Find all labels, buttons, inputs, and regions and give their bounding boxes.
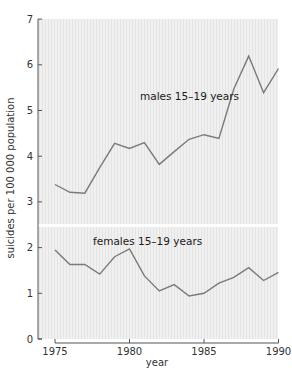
line-chart: 01234567 1975198019851990 males 15–19 ye… [0, 0, 292, 370]
x-axis: 1975198019851990 [38, 339, 291, 357]
y-tick-label: 7 [27, 14, 33, 25]
x-axis-title: year [146, 357, 169, 368]
males-series-label: males 15–19 years [140, 90, 239, 102]
x-tick-label: 1990 [266, 346, 291, 357]
y-tick-label: 4 [27, 151, 33, 162]
x-tick-label: 1975 [42, 346, 67, 357]
y-tick-label: 3 [27, 196, 33, 207]
x-tick-label: 1980 [117, 346, 142, 357]
y-tick-label: 2 [27, 242, 33, 253]
females-series-label: females 15–19 years [93, 235, 202, 247]
y-tick-label: 5 [27, 105, 33, 116]
y-axis-title: suicides per 100 000 population [5, 97, 16, 258]
y-tick-label: 1 [27, 288, 33, 299]
y-tick-label: 6 [27, 59, 33, 70]
x-tick-label: 1985 [191, 346, 216, 357]
y-tick-label: 0 [27, 334, 33, 345]
plot-area-upper [38, 19, 278, 224]
